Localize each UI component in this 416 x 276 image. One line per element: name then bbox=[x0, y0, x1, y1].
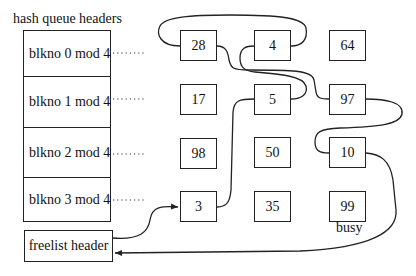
hash-header-0: blkno 0 mod 4 bbox=[24, 31, 110, 77]
buffer-99: 99 bbox=[329, 191, 366, 222]
buffer-35: 35 bbox=[254, 191, 291, 222]
buffer-4: 4 bbox=[254, 30, 291, 61]
dotted-hash-links bbox=[113, 53, 145, 200]
freelist-to-3-arrow bbox=[113, 207, 178, 239]
hash-queue-headers-title: hash queue headers bbox=[13, 11, 122, 27]
hash-queue-headers-table: blkno 0 mod 4 blkno 1 mod 4 blkno 2 mod … bbox=[23, 30, 111, 222]
buffer-64: 64 bbox=[329, 30, 366, 61]
buffer-50: 50 bbox=[254, 137, 291, 168]
buffer-5: 5 bbox=[254, 84, 291, 115]
link-3-to-5 bbox=[217, 99, 254, 207]
busy-label: busy bbox=[336, 220, 362, 236]
hash-header-3: blkno 3 mod 4 bbox=[24, 178, 110, 221]
hash-header-1: blkno 1 mod 4 bbox=[24, 77, 110, 128]
freelist-header: freelist header bbox=[24, 230, 113, 262]
buffer-28: 28 bbox=[180, 30, 217, 61]
buffer-98: 98 bbox=[180, 138, 217, 169]
buffer-17: 17 bbox=[180, 84, 217, 115]
buffer-10: 10 bbox=[329, 137, 366, 168]
buffer-97: 97 bbox=[329, 84, 366, 115]
buffer-3: 3 bbox=[180, 191, 217, 222]
hash-header-2: blkno 2 mod 4 bbox=[24, 128, 110, 178]
